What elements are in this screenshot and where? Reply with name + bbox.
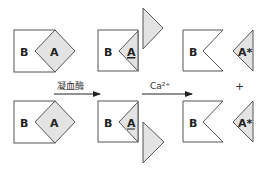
calcium-label: Ca²⁺ <box>150 81 170 91</box>
a-star-label: A* <box>238 117 253 130</box>
top-intact-complex: B A <box>14 30 75 72</box>
bottom-intact-complex: B A <box>14 101 75 143</box>
a-label: A <box>50 117 59 130</box>
a-label: A <box>50 46 59 59</box>
a-label: A <box>127 117 136 130</box>
bottom-separated: B A* <box>183 101 253 142</box>
a-star-label: A* <box>238 46 253 59</box>
arrow-thrombin: 凝血酶 <box>54 80 100 94</box>
released-fragment-triangle <box>143 122 164 163</box>
released-fragment-triangle <box>143 8 163 49</box>
b-label: B <box>20 117 28 130</box>
diagram-canvas: B A B A B A* 凝血酶 Ca²⁺ + B A B A <box>0 0 259 170</box>
b-label: B <box>104 46 112 59</box>
top-cleaved-complex: B A <box>98 8 163 71</box>
thrombin-label: 凝血酶 <box>57 80 84 91</box>
b-label: B <box>189 46 197 59</box>
bottom-cleaved-complex: B A <box>98 101 164 163</box>
plus-sign: + <box>235 80 244 93</box>
b-label: B <box>104 117 112 130</box>
b-label: B <box>20 46 28 59</box>
a-label: A <box>127 46 136 59</box>
b-label: B <box>189 117 197 130</box>
top-separated: B A* <box>183 30 253 71</box>
arrow-calcium: Ca²⁺ <box>142 81 192 94</box>
